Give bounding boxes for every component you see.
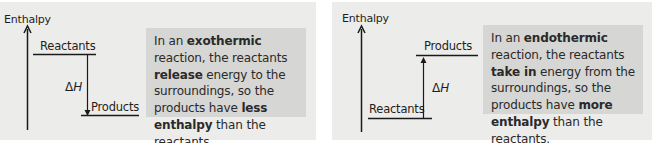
products-label: Products — [91, 100, 139, 114]
text-segment: In an — [491, 31, 524, 45]
keyword-take-in: take in — [491, 65, 536, 79]
enthalpy-axis-label: Enthalpy — [4, 13, 51, 26]
text-segment: reaction, the reactants — [491, 48, 624, 62]
text-segment: reaction, the reactants — [154, 51, 287, 65]
arrow-up-icon — [421, 57, 427, 63]
enthalpy-variable: H — [440, 81, 449, 95]
reactants-label: Reactants — [369, 102, 424, 116]
delta-symbol: Δ — [65, 80, 73, 94]
enthalpy-variable: H — [73, 80, 82, 94]
exothermic-explanation: In an exothermic reaction, the reactants… — [146, 28, 306, 117]
keyword-exothermic: exothermic — [187, 34, 262, 48]
delta-symbol: Δ — [432, 81, 440, 95]
reactants-label: Reactants — [40, 39, 95, 53]
enthalpy-axis-label: Enthalpy — [342, 12, 389, 25]
keyword-endothermic: endothermic — [524, 31, 608, 45]
products-label: Products — [424, 39, 472, 53]
delta-h-label: ΔH — [65, 80, 82, 94]
text-segment: In an — [154, 34, 187, 48]
endothermic-explanation: In an endothermic reaction, the reactant… — [483, 25, 643, 114]
keyword-release: release — [154, 68, 203, 82]
exothermic-panel: Enthalpy Reactants ΔH Products In an exo… — [0, 2, 316, 140]
endothermic-panel: Enthalpy Products ΔH Reactants In an end… — [332, 2, 652, 140]
delta-h-label: ΔH — [432, 81, 449, 95]
